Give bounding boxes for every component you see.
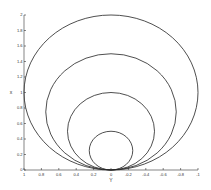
y-tick-label: 0.4 (17, 136, 23, 141)
x-axis-label: Y (109, 177, 113, 183)
x-tick-label: -0.4 (142, 172, 150, 177)
x-tick-label: -0.2 (125, 172, 133, 177)
y-tick-label: 1.2 (17, 74, 23, 79)
circles-plot: 10.80.60.40.20-0.2-0.4-0.6-0.8-100.20.40… (0, 0, 211, 190)
y-tick-label: 0.8 (17, 105, 23, 110)
y-tick-label: 2 (20, 12, 23, 17)
x-tick-label: -1 (196, 172, 200, 177)
y-axis-label: x (10, 89, 13, 95)
y-tick-label: 0.6 (17, 121, 23, 126)
y-tick-label: 1.6 (17, 43, 23, 48)
x-tick-label: -0.8 (177, 172, 185, 177)
x-tick-label: 1 (23, 172, 26, 177)
y-tick-label: 1 (20, 90, 23, 95)
x-tick-label: 0.2 (91, 172, 97, 177)
y-tick-label: 1.8 (17, 28, 23, 33)
x-tick-label: 0.4 (73, 172, 79, 177)
plot-curves (24, 15, 198, 170)
x-tick-label: -0.6 (160, 172, 168, 177)
x-tick-label: 0.6 (56, 172, 62, 177)
circle-series-3 (89, 131, 133, 170)
x-tick-label: 0.8 (39, 172, 45, 177)
x-tick-label: 0 (110, 172, 113, 177)
y-tick-label: 1.4 (17, 59, 23, 64)
circle-series-1 (46, 54, 177, 170)
y-tick-label: 0.2 (17, 152, 23, 157)
axes: 10.80.60.40.20-0.2-0.4-0.6-0.8-100.20.40… (17, 12, 201, 176)
